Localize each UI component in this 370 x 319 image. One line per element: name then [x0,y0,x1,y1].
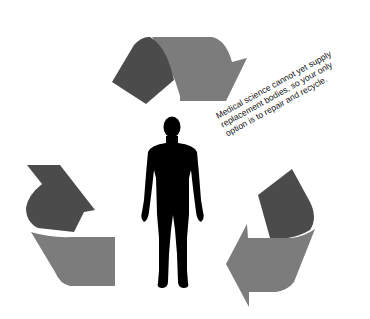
body [141,136,203,288]
right-recycle-arrow [226,169,315,307]
left-recycle-arrow [26,165,115,286]
left-arrow-light-segment [31,232,115,286]
top-recycle-arrow [112,37,247,104]
human-silhouette [141,117,203,289]
head [164,117,181,138]
left-arrow-dark-segment [26,165,95,232]
recycle-diagram [0,0,370,319]
right-arrow-dark-segment [258,169,314,238]
